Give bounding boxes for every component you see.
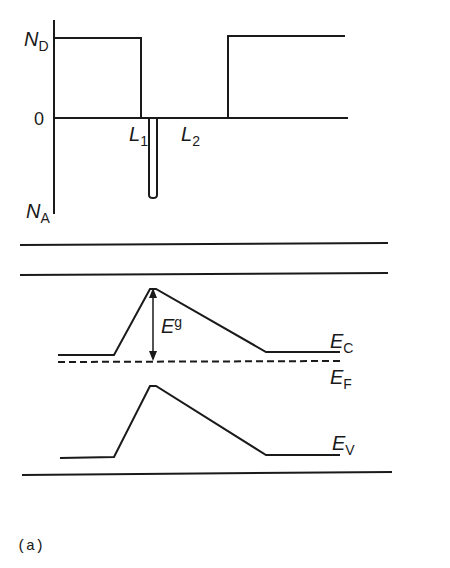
nd-label: ND — [24, 28, 49, 54]
bottom-line — [22, 472, 392, 475]
nd-profile-right — [228, 36, 345, 118]
ef-label: EF — [330, 366, 352, 392]
conduction-band — [58, 289, 340, 355]
na-spike — [149, 118, 157, 198]
separator-line-top — [20, 243, 388, 245]
na-label: NA — [26, 200, 50, 226]
eg-label: Eg — [161, 314, 182, 337]
figure: ND 0 NA L1 L2 Eg EC EF EV (a) — [0, 0, 450, 568]
vacuum-line — [20, 273, 388, 275]
zero-label: 0 — [34, 109, 44, 129]
valence-band — [60, 386, 340, 458]
nd-profile-left — [54, 38, 141, 118]
fermi-level — [58, 361, 340, 362]
eg-arrow-down-icon — [149, 351, 157, 361]
l1-label: L1 — [129, 123, 148, 149]
figure-caption: (a) — [17, 538, 44, 555]
l2-label: L2 — [181, 123, 200, 149]
doping-profile — [54, 20, 348, 214]
